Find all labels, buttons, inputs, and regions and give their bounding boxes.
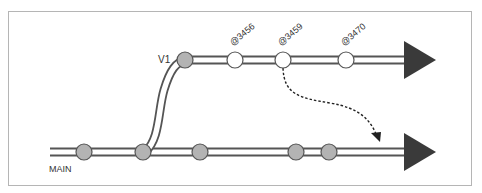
v1-arrowhead-icon [404,41,436,79]
commit-label-3459: @3459 [276,21,305,47]
commit-node[interactable] [192,144,208,160]
commit-node[interactable] [135,144,151,160]
branch-curve [145,60,186,152]
v1-commits [227,52,354,68]
commit-label-3470: @3470 [339,21,368,47]
merge-arrowhead-icon [371,132,381,142]
merge-dashed-arrow [283,68,376,134]
v1-branch-line [185,57,410,64]
commit-node-v1-root[interactable] [177,52,193,68]
commit-node-3470[interactable] [338,52,354,68]
main-arrowhead-icon [404,133,436,171]
main-branch-line [50,149,410,156]
commit-node[interactable] [288,144,304,160]
branch-label-main: MAIN [49,164,72,174]
commit-node[interactable] [76,144,92,160]
commit-node[interactable] [321,144,337,160]
commit-node-3456[interactable] [227,52,243,68]
branch-label-v1: V1 [158,54,171,65]
commit-node-3459[interactable] [275,52,291,68]
main-commits [76,144,337,160]
branch-diagram: V1 MAIN @3456 @3459 @3470 [0,0,482,193]
commit-label-3456: @3456 [228,21,257,47]
